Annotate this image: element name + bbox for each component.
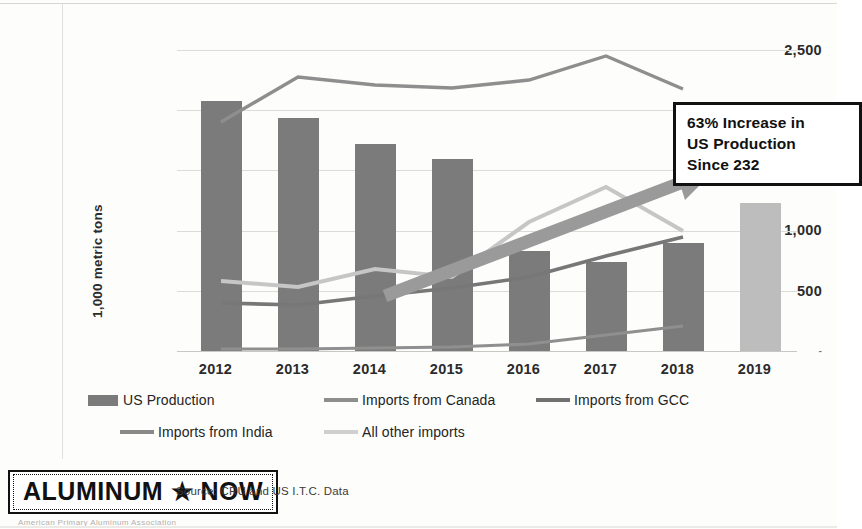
chart-legend: US Production Imports from Canada Import… [88,392,808,454]
legend-swatch-line-gcc-icon [536,398,570,402]
x-tick-2012: 2012 [177,361,254,377]
legend-label-imports-gcc: Imports from GCC [574,392,689,408]
y-axis-title: 1,000 metric tons [90,204,105,318]
x-tick-2013: 2013 [254,361,331,377]
x-tick-2019: 2019 [716,361,793,377]
callout-line-2: US Production [687,133,859,154]
y-axis-title-wrap: 1,000 metric tons [68,50,96,351]
legend-label-imports-india: Imports from India [158,424,273,440]
x-tick-2015: 2015 [408,361,485,377]
line-imports-canada [221,56,683,122]
callout-line-1: 63% Increase in [687,112,859,133]
x-axis-line [177,351,797,352]
legend-item-imports-india: Imports from India [120,424,273,440]
x-tick-2018: 2018 [639,361,716,377]
x-tick-2017: 2017 [562,361,639,377]
x-tick-2014: 2014 [331,361,408,377]
callout-box: 63% Increase in US Production Since 232 [673,102,862,186]
legend-item-imports-gcc: Imports from GCC [536,392,689,408]
x-tick-2016: 2016 [485,361,562,377]
plot-area [177,50,797,351]
line-imports-india [221,326,683,349]
legend-label-us-production: US Production [123,392,215,408]
legend-label-all-other-imports: All other imports [362,424,465,440]
scan-edge-top [0,3,837,4]
callout-line-3: Since 232 [687,154,859,175]
legend-swatch-line-india-icon [120,430,154,434]
chart-figure: 1,000 metric tons 2,500 2,000 1,500 1,00… [62,6,822,386]
legend-item-all-other-imports: All other imports [324,424,465,440]
line-series-layer [177,50,797,351]
legend-swatch-line-canada-icon [324,398,358,402]
legend-swatch-line-other-icon [324,430,358,434]
scan-edge-bottom [0,526,837,528]
page-footer: ALUMINUM ★ NOW American Primary Aluminum… [0,466,837,529]
legend-item-imports-canada: Imports from Canada [324,392,495,408]
legend-label-imports-canada: Imports from Canada [362,392,495,408]
source-note: Source: CRU and US I.T.C. Data [176,485,349,497]
legend-swatch-bar-icon [88,395,118,406]
legend-item-us-production: US Production [88,392,215,408]
